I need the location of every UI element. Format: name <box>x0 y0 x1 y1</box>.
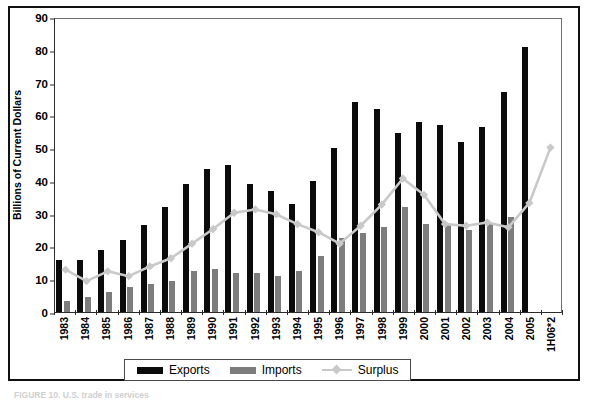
bar-imports <box>64 301 70 312</box>
bar-imports <box>318 256 324 312</box>
category-group <box>394 19 415 312</box>
x-tick-mark <box>414 310 415 315</box>
bar-exports <box>289 204 295 312</box>
category-group <box>182 19 203 312</box>
imports-swatch-icon <box>230 367 256 374</box>
y-axis-title-text: Billions of Current Dollars <box>11 90 23 220</box>
x-tick-mark <box>562 310 563 315</box>
chart-legend: Exports Imports Surplus <box>124 359 411 381</box>
bar-imports <box>127 287 133 312</box>
x-tick-mark <box>393 310 394 315</box>
x-tick-mark <box>499 310 500 315</box>
bar-exports <box>247 184 253 312</box>
bar-imports <box>296 271 302 312</box>
bar-exports <box>77 260 83 312</box>
category-group <box>119 19 140 312</box>
bar-exports <box>416 122 422 312</box>
x-tick-label-1992: 1992 <box>250 317 261 340</box>
category-group <box>288 19 309 312</box>
category-group <box>267 19 288 312</box>
bar-exports <box>183 184 189 312</box>
x-tick-mark <box>520 310 521 315</box>
category-group <box>457 19 478 312</box>
bar-exports <box>522 47 528 313</box>
category-group <box>140 19 161 312</box>
x-tick-label-1986: 1986 <box>123 317 134 340</box>
bar-exports <box>310 181 316 312</box>
category-group <box>436 19 457 312</box>
bar-imports <box>487 224 493 313</box>
x-tick-mark <box>75 310 76 315</box>
x-tick-mark <box>308 310 309 315</box>
bar-imports <box>212 269 218 312</box>
x-tick-label-1983: 1983 <box>59 317 70 340</box>
category-group <box>351 19 372 312</box>
category-group <box>500 19 521 312</box>
x-tick-mark <box>139 310 140 315</box>
bottom-caption: FIGURE 10. U.S. trade in services <box>14 390 314 399</box>
x-tick-mark <box>456 310 457 315</box>
category-group <box>309 19 330 312</box>
bar-exports <box>374 109 380 312</box>
plot-area: 0102030405060708090 <box>54 18 562 313</box>
x-tick-mark <box>223 310 224 315</box>
bar-imports <box>275 276 281 312</box>
x-tick-label-1991: 1991 <box>228 317 239 340</box>
legend-label-exports: Exports <box>169 364 210 376</box>
legend-item-imports: Imports <box>230 364 302 376</box>
x-tick-mark <box>181 310 182 315</box>
x-tick-label-2004: 2004 <box>504 317 515 340</box>
x-tick-mark <box>54 310 55 315</box>
bar-imports <box>85 297 91 312</box>
bar-imports <box>360 233 366 312</box>
x-tick-label-2003: 2003 <box>482 317 493 340</box>
bar-exports <box>268 191 274 312</box>
bar-exports <box>141 225 147 312</box>
bar-exports <box>162 207 168 312</box>
bar-exports <box>479 127 485 312</box>
x-tick-label-1999: 1999 <box>398 317 409 340</box>
bar-exports <box>98 250 104 312</box>
x-tick-label-1998: 1998 <box>377 317 388 340</box>
x-tick-label-1H06*2: 1H06*2 <box>546 317 557 352</box>
surplus-swatch-icon <box>322 366 352 375</box>
x-tick-label-1996: 1996 <box>334 317 345 340</box>
y-axis-title: Billions of Current Dollars <box>6 0 28 310</box>
bar-exports <box>120 240 126 312</box>
category-group <box>161 19 182 312</box>
bar-imports <box>233 273 239 312</box>
bar-imports <box>508 217 514 312</box>
bar-imports <box>381 227 387 312</box>
x-tick-mark <box>287 310 288 315</box>
bar-exports <box>56 260 62 312</box>
x-tick-label-2000: 2000 <box>419 317 430 340</box>
legend-item-surplus: Surplus <box>322 364 399 376</box>
x-tick-mark <box>118 310 119 315</box>
legend-label-surplus: Surplus <box>358 364 399 376</box>
category-group <box>521 19 542 312</box>
category-group <box>415 19 436 312</box>
x-tick-label-1987: 1987 <box>144 317 155 340</box>
bar-imports <box>445 224 451 313</box>
x-tick-mark <box>477 310 478 315</box>
x-tick-label-1988: 1988 <box>165 317 176 340</box>
x-tick-label-1997: 1997 <box>355 317 366 340</box>
surplus-swatch-diamond-icon <box>331 365 341 375</box>
bar-exports <box>225 165 231 313</box>
x-tick-mark <box>435 310 436 315</box>
exports-swatch-icon <box>137 367 163 374</box>
bar-imports <box>402 207 408 312</box>
bar-imports <box>254 273 260 312</box>
category-group <box>76 19 97 312</box>
x-tick-label-1989: 1989 <box>186 317 197 340</box>
bar-exports <box>331 148 337 312</box>
x-tick-label-2005: 2005 <box>525 317 536 340</box>
bar-imports <box>423 224 429 313</box>
x-tick-mark <box>350 310 351 315</box>
bar-exports <box>204 169 210 312</box>
bar-imports <box>339 238 345 312</box>
category-group <box>478 19 499 312</box>
x-tick-mark <box>160 310 161 315</box>
bar-imports <box>466 230 472 312</box>
x-tick-label-1985: 1985 <box>101 317 112 340</box>
